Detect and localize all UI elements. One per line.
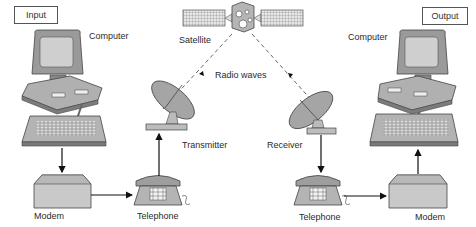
label-telephone-right: Telephone: [299, 213, 341, 222]
diagram-graphics: [0, 0, 476, 227]
receiver-dish-icon: [283, 85, 339, 136]
modem-left-icon: [34, 175, 91, 208]
telephone-left-icon: [134, 176, 190, 206]
label-telephone-left: Telephone: [137, 212, 179, 221]
label-modem-right: Modem: [415, 213, 445, 222]
satellite-icon: [183, 2, 303, 32]
data-transmission-diagram: Input Output Computer Computer Satellite…: [0, 0, 476, 227]
wave-arrow-left: [199, 71, 204, 76]
input-box: Input: [14, 6, 58, 24]
label-modem-left: Modem: [34, 212, 64, 221]
telephone-right-icon: [294, 176, 350, 206]
computer-left-icon: [22, 30, 106, 146]
label-computer-left: Computer: [89, 32, 129, 41]
label-computer-right: Computer: [348, 33, 388, 42]
output-box: Output: [422, 7, 468, 25]
modem-right-icon: [389, 175, 447, 208]
computer-right-icon: [370, 30, 458, 146]
label-transmitter: Transmitter: [182, 141, 227, 150]
wave-arrow-right: [288, 73, 293, 78]
label-receiver: Receiver: [267, 141, 303, 150]
transmitter-dish-icon: [145, 74, 200, 130]
flow-arrows: [62, 134, 418, 196]
label-radio-waves: Radio waves: [215, 71, 267, 80]
label-satellite: Satellite: [179, 36, 211, 45]
